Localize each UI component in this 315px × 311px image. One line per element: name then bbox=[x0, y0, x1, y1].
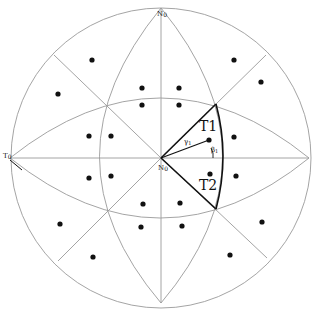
sample-dot bbox=[138, 224, 143, 229]
north-label: N0 bbox=[157, 10, 167, 18]
sample-dot bbox=[57, 221, 62, 226]
sample-dot bbox=[176, 102, 181, 107]
sample-dot bbox=[108, 173, 113, 178]
triangle-t1-label: T1 bbox=[199, 118, 217, 134]
sample-dot bbox=[86, 175, 91, 180]
highlight-triangles bbox=[10, 104, 223, 209]
grid-lines bbox=[10, 8, 311, 308]
sample-dot bbox=[231, 57, 236, 62]
sample-dot bbox=[258, 79, 263, 84]
triangle-t2-label: T2 bbox=[199, 177, 217, 193]
sample-dot bbox=[140, 201, 145, 206]
sample-dot bbox=[139, 102, 144, 107]
sample-dot bbox=[207, 171, 212, 176]
diagonal-sw bbox=[58, 158, 161, 261]
sample-dot bbox=[259, 219, 264, 224]
sample-dot bbox=[177, 200, 182, 205]
sample-dot bbox=[139, 85, 144, 90]
sample-dot bbox=[233, 173, 238, 178]
sample-dot bbox=[86, 133, 91, 138]
sample-dot bbox=[89, 57, 94, 62]
center-label: N0 bbox=[158, 164, 168, 172]
diagram-canvas: N0 T0 N0 T1 T2 γ1 β1 bbox=[0, 0, 315, 311]
gamma-label: γ1 bbox=[184, 138, 191, 146]
sample-dot bbox=[90, 254, 95, 259]
sample-dot bbox=[108, 133, 113, 138]
beta-label: β1 bbox=[211, 146, 218, 154]
sample-dot bbox=[227, 252, 232, 257]
diagonal-nw-se bbox=[54, 55, 161, 158]
west-label: T0 bbox=[3, 152, 12, 160]
sample-dot bbox=[206, 137, 211, 142]
sample-dot bbox=[179, 223, 184, 228]
sample-dot bbox=[55, 91, 60, 96]
sample-dot bbox=[176, 85, 181, 90]
sample-dot bbox=[231, 134, 236, 139]
